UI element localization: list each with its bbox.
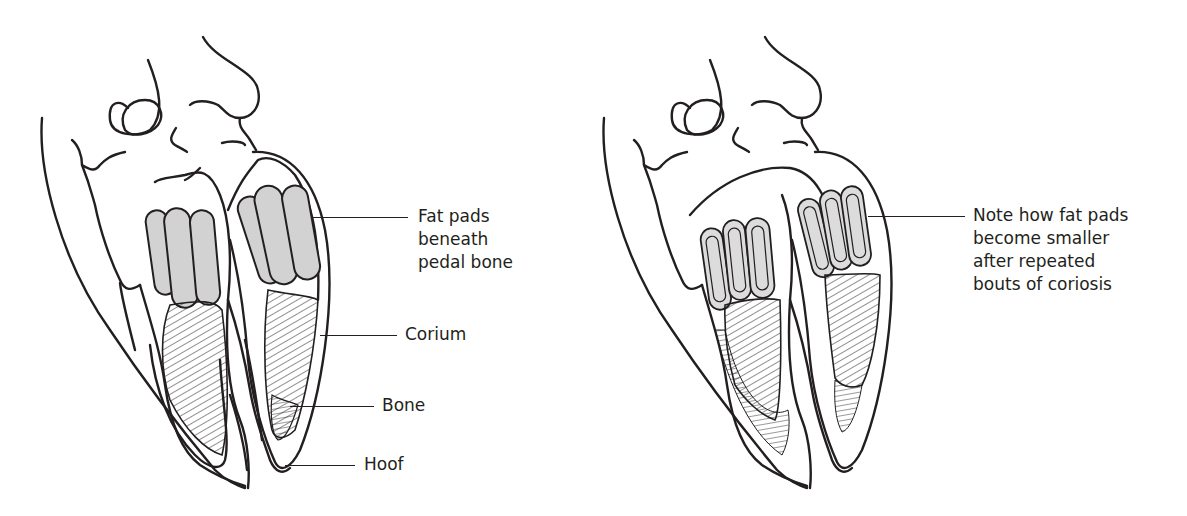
coriosis-note-label: Note how fat pads become smaller after r…: [973, 204, 1128, 296]
fat-pads-label: Fat pads beneath pedal bone: [418, 205, 513, 274]
right-claw-fat-pads: [235, 183, 322, 287]
left-claw-corium: [163, 302, 228, 455]
left-claw-fat-pads: [144, 207, 221, 309]
bone-label: Bone: [382, 394, 425, 417]
corium-label: Corium: [405, 323, 466, 346]
note-line-2: become smaller: [973, 227, 1128, 250]
fat-pads-label-line-3: pedal bone: [418, 251, 513, 274]
right-panel-right-claw-corium: [825, 274, 880, 387]
bone-leader-line: [290, 406, 374, 407]
corium-leader-line: [320, 335, 397, 336]
note-leader-line: [868, 216, 965, 217]
note-line-1: Note how fat pads: [973, 204, 1128, 227]
right-panel-right-claw-bone: [835, 380, 862, 432]
note-line-4: bouts of coriosis: [973, 273, 1128, 296]
hoof-leader-line: [285, 465, 355, 466]
hoof-label: Hoof: [364, 453, 404, 476]
fat-pads-label-line-2: beneath: [418, 228, 513, 251]
note-line-3: after repeated: [973, 250, 1128, 273]
fat-pads-leader-line: [313, 217, 408, 218]
fat-pads-label-line-1: Fat pads: [418, 205, 513, 228]
